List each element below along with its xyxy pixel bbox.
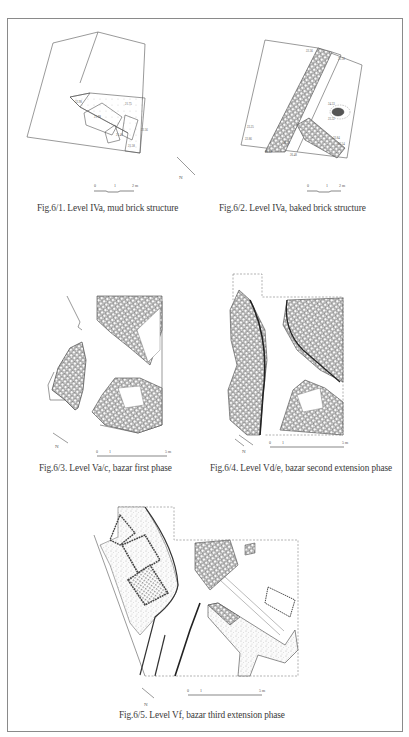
scale-bar: 0 1 2 m bbox=[94, 183, 139, 192]
plan-drawing-bazar-second-extension bbox=[225, 270, 375, 440]
svg-text:0: 0 bbox=[94, 183, 96, 188]
svg-text:24.33: 24.33 bbox=[328, 102, 335, 106]
svg-text:21.40: 21.40 bbox=[116, 133, 123, 137]
scale-bar-fig-6-5: N 0 1 5 m bbox=[130, 686, 280, 708]
svg-text:21.75: 21.75 bbox=[125, 102, 132, 106]
svg-text:22.86: 22.86 bbox=[245, 137, 252, 141]
figure-6-3: N bbox=[40, 290, 190, 450]
svg-text:22.56: 22.56 bbox=[306, 49, 313, 53]
svg-text:1: 1 bbox=[282, 440, 284, 445]
svg-text:1: 1 bbox=[200, 688, 202, 693]
svg-text:1: 1 bbox=[114, 183, 116, 188]
caption-fig-6-5: Fig.6/5. Level Vf, bazar third extension… bbox=[119, 710, 285, 720]
plan-drawing-baked-brick: 22.56 22.58 24.33 23.32 23.25 22.86 22.8… bbox=[235, 30, 395, 200]
figure-6-1: 21.75 22.98 21.98 21.40 22.56 21.58 N 0 … bbox=[20, 25, 200, 225]
caption-fig-6-2: Fig.6/2. Level IVa, baked brick structur… bbox=[219, 203, 366, 213]
svg-text:N: N bbox=[179, 175, 183, 180]
svg-text:22.84: 22.84 bbox=[333, 136, 340, 140]
figure-6-4 bbox=[225, 270, 375, 440]
figure-6-2: 22.56 22.58 24.33 23.32 23.25 22.86 22.8… bbox=[235, 30, 395, 200]
svg-text:26.20: 26.20 bbox=[283, 141, 290, 145]
svg-text:0: 0 bbox=[307, 183, 309, 188]
svg-text:22.98: 22.98 bbox=[75, 100, 82, 104]
scale-bar-fig-6-3: 0 1 5 m bbox=[95, 448, 175, 462]
plan-drawing-bazar-third-extension bbox=[90, 505, 310, 685]
svg-text:2 m: 2 m bbox=[339, 183, 346, 188]
svg-text:1: 1 bbox=[109, 449, 111, 454]
svg-text:21.58: 21.58 bbox=[128, 144, 135, 148]
figure-6-5 bbox=[90, 505, 310, 685]
caption-fig-6-3: Fig.6/3. Level Va/c, bazar first phase bbox=[39, 463, 172, 473]
north-arrow-icon: N bbox=[242, 449, 246, 454]
svg-text:5 m: 5 m bbox=[165, 449, 172, 454]
svg-text:23.25: 23.25 bbox=[247, 125, 254, 129]
svg-text:2 m: 2 m bbox=[132, 183, 139, 188]
svg-text:21.98: 21.98 bbox=[94, 115, 101, 119]
scale-bar-fig-6-4: N 0 1 5 m bbox=[232, 437, 362, 455]
caption-fig-6-4: Fig.6/4. Level Vd/e, bazar second extens… bbox=[210, 463, 392, 473]
caption-fig-6-1: Fig.6/1. Level IVa, mud brick structure bbox=[37, 203, 178, 213]
svg-text:0: 0 bbox=[96, 449, 98, 454]
north-arrow-icon: N bbox=[177, 157, 195, 180]
svg-text:5 m: 5 m bbox=[342, 440, 349, 445]
svg-text:0: 0 bbox=[269, 440, 271, 445]
north-arrow-icon: N bbox=[144, 702, 148, 707]
svg-text:26.22: 26.22 bbox=[265, 150, 272, 154]
svg-text:23.32: 23.32 bbox=[328, 117, 335, 121]
svg-text:22.58: 22.58 bbox=[338, 57, 345, 61]
plan-drawing-bazar-first-phase: N bbox=[40, 290, 190, 450]
svg-text:0: 0 bbox=[187, 688, 189, 693]
svg-text:22.54: 22.54 bbox=[338, 142, 345, 146]
plan-drawing-mud-brick: 21.75 22.98 21.98 21.40 22.56 21.58 N 0 … bbox=[20, 25, 200, 225]
svg-text:22.56: 22.56 bbox=[141, 128, 148, 132]
svg-text:26.48: 26.48 bbox=[290, 153, 297, 157]
svg-text:N: N bbox=[55, 444, 59, 449]
svg-text:5 m: 5 m bbox=[259, 688, 266, 693]
north-arrow-icon: N bbox=[53, 433, 68, 449]
svg-text:1: 1 bbox=[326, 183, 328, 188]
scale-bar: 0 1 2 m bbox=[307, 183, 346, 192]
